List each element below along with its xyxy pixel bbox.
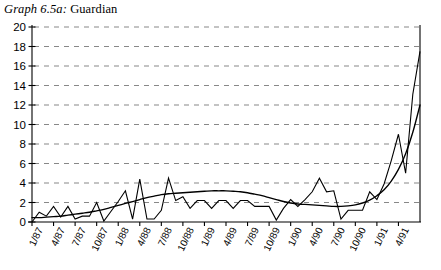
x-axis-tick-label: 1/89 <box>200 226 218 248</box>
x-axis-labels: 1/874/877/8710/871/884/887/8810/881/894/… <box>0 226 441 270</box>
chart-subject: Guardian <box>70 2 117 16</box>
x-axis-tick-label: 1/87 <box>27 226 45 248</box>
chart-figure: Graph 6.5a: Guardian 02468101214161820 1… <box>0 0 441 270</box>
x-axis-tick-label: 10/90 <box>348 226 368 253</box>
chart-svg: 02468101214161820 <box>0 18 441 230</box>
chart-title: Graph 6.5a: Guardian <box>4 2 117 17</box>
x-axis-tick-label: 7/89 <box>243 226 261 248</box>
x-axis-tick-label: 7/90 <box>329 226 347 248</box>
x-axis-tick-label: 10/87 <box>90 226 110 253</box>
y-axis-tick-label: 8 <box>20 138 26 150</box>
x-axis-tick-label: 10/88 <box>176 226 196 253</box>
y-axis-tick-label: 6 <box>20 158 26 170</box>
x-axis-tick-label: 4/91 <box>394 226 412 248</box>
x-axis-tick-label: 7/87 <box>71 226 89 248</box>
x-axis-tick-label: 4/88 <box>135 226 153 248</box>
data-line <box>32 51 420 222</box>
x-axis-tick-label: 1/91 <box>372 226 390 248</box>
x-axis-tick-label: 1/88 <box>114 226 132 248</box>
y-axis-tick-label: 16 <box>13 60 26 72</box>
gridlines <box>34 27 420 203</box>
y-axis-tick-label: 10 <box>13 119 26 131</box>
x-axis-tick-label: 7/88 <box>157 226 175 248</box>
x-axis-tick-label: 4/89 <box>221 226 239 248</box>
y-axis-tick-label: 2 <box>20 197 26 209</box>
y-axis-tick-label: 4 <box>20 177 27 189</box>
chart-number: Graph 6.5a: <box>4 2 67 16</box>
plot-area: 02468101214161820 <box>0 18 441 230</box>
x-axis-tick-label: 10/89 <box>262 226 282 253</box>
y-axis-tick-label: 14 <box>13 80 26 92</box>
x-axis-tick-label: 4/87 <box>49 226 67 248</box>
y-axis-tick-label: 12 <box>13 99 26 111</box>
y-axis-tick-label: 18 <box>13 41 26 53</box>
y-axis-labels: 02468101214161820 <box>13 21 26 228</box>
x-axis-tick-label: 4/90 <box>308 226 326 248</box>
y-axis-tick-label: 20 <box>13 21 26 33</box>
x-axis-tick-label: 1/90 <box>286 226 304 248</box>
